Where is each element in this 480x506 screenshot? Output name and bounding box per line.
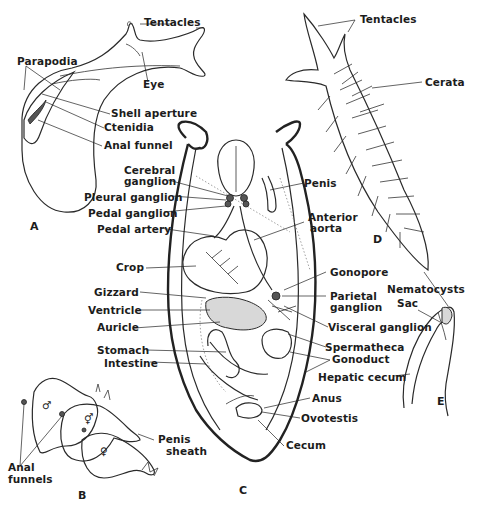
- label-b-anal-funnels-1: Anal: [8, 462, 35, 473]
- label-a-tentacles: Tentacles: [144, 17, 201, 28]
- panel-c-drawing: [168, 122, 315, 461]
- label-c-cecum: Cecum: [286, 440, 326, 451]
- label-a-eye: Eye: [143, 79, 164, 90]
- male-symbol: ♂: [42, 400, 52, 411]
- label-c-stomach: Stomach: [97, 345, 149, 356]
- label-b-penis-sheath-2: sheath: [166, 446, 207, 457]
- label-d-cerata: Cerata: [425, 77, 465, 88]
- label-d-tentacles: Tentacles: [360, 14, 417, 25]
- label-e-sac: Sac: [397, 298, 418, 309]
- panel-label-b: B: [78, 489, 86, 502]
- label-a-parapodia: Parapodia: [17, 56, 78, 67]
- label-c-ovotestis: Ovotestis: [301, 413, 358, 424]
- label-c-crop: Crop: [116, 262, 144, 273]
- panel-b-drawing: [22, 379, 159, 479]
- label-e-nematocysts: Nematocysts: [387, 284, 465, 295]
- label-c-pedal-ganglion: Pedal ganglion: [88, 208, 178, 219]
- label-c-penis: Penis: [304, 178, 337, 189]
- label-c-intestine: Intestine: [104, 358, 158, 369]
- label-c-gizzard: Gizzard: [94, 287, 139, 298]
- label-c-anterior-aorta-2: aorta: [310, 223, 342, 234]
- label-c-anus: Anus: [312, 393, 342, 404]
- panel-label-d: D: [373, 233, 382, 246]
- label-a-shell-aperture: Shell aperture: [111, 108, 197, 119]
- label-a-ctenidia: Ctenidia: [104, 122, 154, 133]
- label-c-cerebral-ganglion-2: ganglion: [124, 176, 176, 187]
- label-c-pedal-artery: Pedal artery: [97, 224, 171, 235]
- panel-label-c: C: [239, 484, 247, 497]
- panel-d-drawing: [286, 14, 428, 270]
- panel-label-a: A: [30, 220, 39, 233]
- label-c-gonoduct: Gonoduct: [332, 354, 390, 365]
- female-symbol: ♀: [100, 446, 108, 457]
- anatomy-illustration: [0, 0, 480, 506]
- label-b-penis-sheath-1: Penis: [158, 434, 191, 445]
- label-b-anal-funnels-2: funnels: [8, 474, 53, 485]
- label-a-anal-funnel: Anal funnel: [104, 140, 173, 151]
- hermaphrodite-symbol: ⚥: [84, 414, 94, 425]
- label-e-hepatic-cecum: Hepatic cecum: [318, 372, 406, 383]
- label-c-gonopore: Gonopore: [330, 267, 388, 278]
- label-c-pleural-ganglion: Pleural ganglion: [84, 192, 183, 203]
- label-c-auricle: Auricle: [97, 322, 139, 333]
- label-c-spermatheca: Spermatheca: [325, 342, 404, 353]
- leader-lines: [20, 20, 448, 466]
- label-c-ventricle: Ventricle: [88, 305, 142, 316]
- label-c-parietal-ganglion-2: ganglion: [330, 302, 382, 313]
- panel-label-e: E: [437, 395, 445, 408]
- label-c-visceral-ganglion: Visceral ganglion: [328, 322, 432, 333]
